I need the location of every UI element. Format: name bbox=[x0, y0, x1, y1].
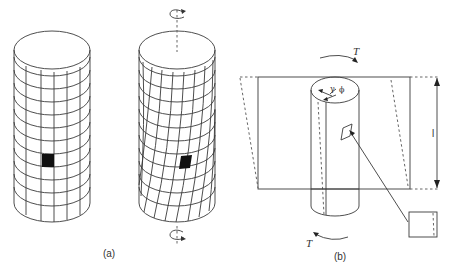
length-dimension: l bbox=[432, 78, 440, 188]
cylinder-b: γ ϕ bbox=[311, 77, 359, 216]
rotation-arrow-bottom-icon bbox=[170, 230, 186, 241]
shear-line-right bbox=[391, 80, 408, 186]
shear-angle-label: γ bbox=[330, 84, 335, 93]
twisted-cylinder bbox=[139, 9, 215, 246]
shear-line-left bbox=[240, 78, 258, 188]
torque-label-top: T bbox=[353, 45, 360, 57]
shaded-element bbox=[179, 155, 192, 169]
twist-angle-label: ϕ bbox=[339, 85, 345, 94]
panel-label-a: (a) bbox=[103, 248, 115, 259]
panel-label-b: (b) bbox=[334, 251, 346, 262]
untwisted-cylinder bbox=[14, 31, 90, 222]
torque-arrow-bottom-icon bbox=[313, 232, 348, 239]
rotation-arrow-top-icon bbox=[170, 9, 186, 18]
element-pointer bbox=[351, 133, 408, 222]
torsion-diagram: (a) bbox=[0, 0, 455, 274]
length-label: l bbox=[432, 128, 434, 139]
enlarged-element bbox=[409, 212, 437, 237]
panel-b: γ ϕ l T T bbox=[240, 45, 440, 262]
shaded-element bbox=[42, 154, 54, 167]
grid-rings bbox=[14, 57, 90, 206]
torque-label-bottom: T bbox=[306, 237, 313, 249]
